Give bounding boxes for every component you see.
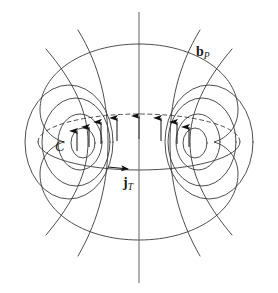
poloidal-field-line-left bbox=[78, 30, 108, 256]
right-nested-loop-0 bbox=[183, 128, 207, 158]
figure-container: bP jT C bbox=[0, 0, 278, 293]
label-poloidal-field: bP bbox=[196, 45, 210, 61]
left-nested-loop-2 bbox=[42, 98, 110, 186]
label-bp-symbol: b bbox=[196, 44, 204, 59]
field-diagram-svg bbox=[0, 0, 278, 293]
label-jt-subscript: T bbox=[128, 182, 134, 192]
label-bp-subscript: P bbox=[204, 51, 210, 61]
poloidal-field-line-right-outer bbox=[190, 49, 232, 235]
label-toroidal-current: jT bbox=[123, 176, 133, 192]
label-contour: C bbox=[55, 140, 64, 154]
left-nested-loop-0 bbox=[71, 128, 95, 158]
poloidal-field-line-left-outer bbox=[46, 49, 88, 235]
poloidal-field-line-right bbox=[170, 30, 200, 256]
label-c-symbol: C bbox=[55, 139, 64, 154]
right-nested-loop-2 bbox=[168, 98, 236, 186]
